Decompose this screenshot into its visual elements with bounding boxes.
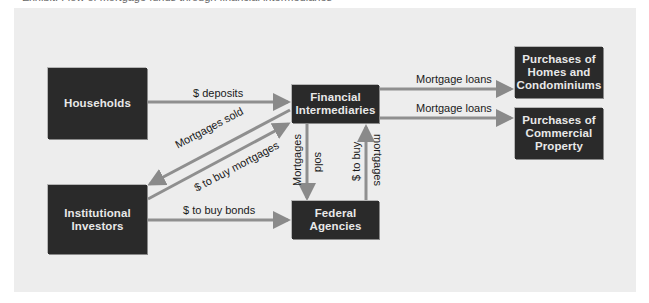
edge-label-deposits: $ deposits [193, 87, 243, 99]
node-label-line: Condominiums [517, 79, 602, 92]
node-households: Households [48, 68, 147, 139]
node-label-line: Financial [310, 91, 361, 104]
node-purchases-commercial: Purchases of Commercial Property [515, 108, 603, 159]
node-label-line: Agencies [310, 220, 362, 233]
edge-label-mortgages-sold-agencies-2: sold [313, 152, 325, 172]
node-label-line: Purchases of [522, 53, 595, 66]
node-label-line: Homes and [528, 66, 591, 79]
node-label-line: Purchases of [522, 114, 595, 127]
node-label-line: Federal [315, 207, 357, 220]
node-financial-intermediaries: Financial Intermediaries [292, 85, 379, 123]
node-label-line: Property [535, 140, 583, 153]
edge-label-mortgages-sold-agencies-1: Mortgages [291, 134, 303, 186]
node-federal-agencies: Federal Agencies [292, 201, 379, 239]
edge-label-dollars-buy-agencies-2: mortgages [372, 134, 384, 186]
node-label-line: Intermediaries [295, 104, 375, 117]
edge-label-mortgage-loans-commercial: Mortgage loans [416, 102, 492, 114]
node-institutional-investors: Institutional Investors [48, 185, 147, 254]
node-purchases-homes: Purchases of Homes and Condominiums [515, 47, 603, 98]
node-label-line: Institutional [64, 207, 130, 220]
arrow-dollars-buy-mortgages [148, 124, 288, 199]
edge-label-dollars-buy-bonds: $ to buy bonds [183, 204, 255, 216]
edge-label-mortgage-loans-homes: Mortgage loans [416, 73, 492, 85]
edge-label-dollars-buy-agencies-1: $ to buy [350, 142, 362, 181]
node-label-line: Investors [71, 220, 123, 233]
node-label: Households [64, 97, 131, 110]
node-label-line: Commercial [526, 127, 593, 140]
